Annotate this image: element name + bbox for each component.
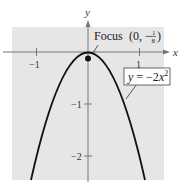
- x-axis-arrow-icon: [163, 50, 170, 55]
- y-tick-label-neg1: −1: [71, 99, 82, 110]
- y-axis-arrow-icon: [86, 20, 91, 27]
- focus-frac-num: 1: [152, 29, 156, 37]
- parabola-chart: x y −1 1 −1 −2 Focus (0, − 1 8 ) y = −2x…: [0, 0, 184, 191]
- svg-text:y = −2x2: y = −2x2: [127, 69, 168, 84]
- y-axis-label: y: [84, 6, 90, 18]
- focus-coord-open: (0, −: [129, 29, 152, 43]
- focus-coord-close: ): [157, 29, 161, 43]
- focus-word: Focus: [94, 29, 123, 43]
- focus-annotation: Focus (0, − 1 8 ): [92, 27, 164, 45]
- focus-point: [85, 56, 91, 62]
- equation-label-box: y = −2x2: [124, 68, 170, 85]
- x-tick-label-neg1: −1: [29, 59, 40, 70]
- eq-mid: = −2: [133, 70, 159, 84]
- focus-frac-den: 8: [152, 37, 156, 45]
- x-axis-label: x: [172, 46, 178, 58]
- y-tick-label-neg2: −2: [71, 151, 82, 162]
- eq-exp: 2: [164, 69, 168, 78]
